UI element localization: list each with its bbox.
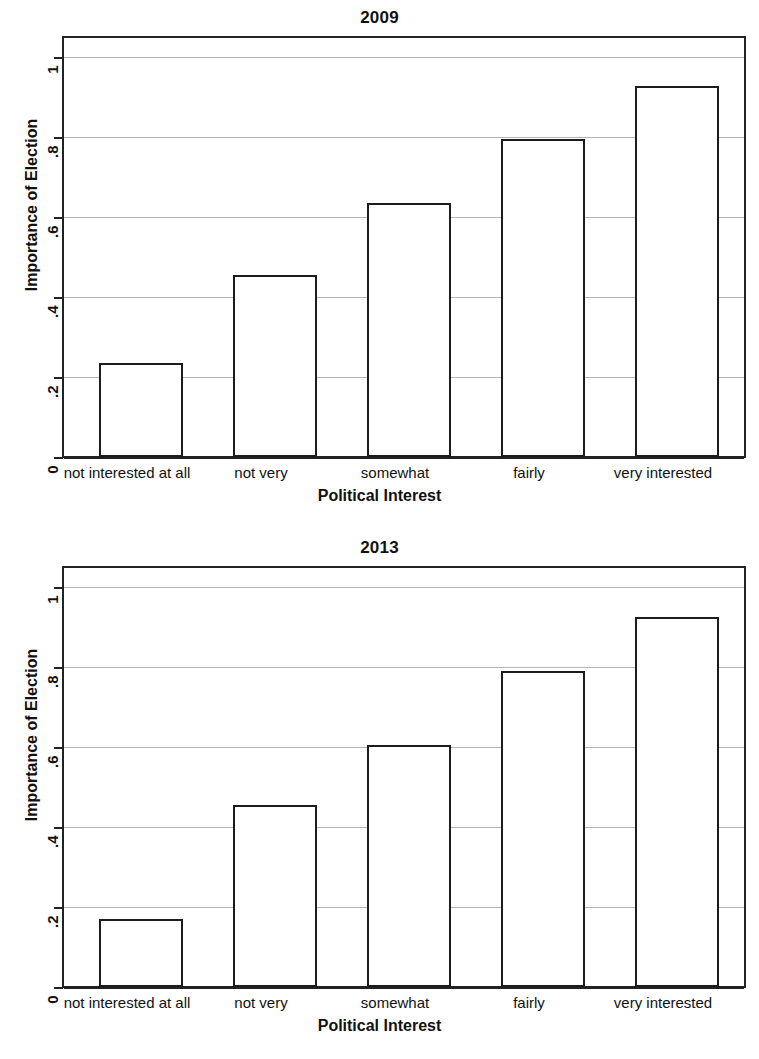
bar-not-very [233,275,317,457]
bar-very-interested [635,617,719,987]
chart-panel-2013: 2013 Importance of Election 1 .8 .6 .4 .… [0,530,759,1059]
plot-area-2009 [62,36,746,458]
y-tick-label-04: .4 [44,836,61,866]
x-axis-title-2013: Political Interest [0,1017,759,1035]
chart-panel-2009: 2009 Importance of Election 1 .8 .6 .4 .… [0,0,759,529]
x-tick-label-not-very: not very [183,464,339,481]
y-tick-label-06: .6 [44,756,61,786]
x-tick-label-somewhat: somewhat [317,464,473,481]
bar-fairly [501,671,585,987]
y-axis-title-2009: Importance of Election [23,85,41,325]
panel-title-2009: 2009 [0,8,759,28]
bar-somewhat [367,203,451,457]
bar-very-interested [635,86,719,457]
x-tick-label-not-very: not very [183,994,339,1011]
bar-not-interested-at-all [99,363,183,457]
x-axis-baseline [64,457,744,459]
y-tick-label-08: .8 [44,146,61,176]
x-tick-label-very-interested: very interested [578,994,748,1011]
chart-page: 2009 Importance of Election 1 .8 .6 .4 .… [0,0,759,1059]
gridline-1 [64,587,744,588]
y-tick-label-06: .6 [44,226,61,256]
bar-not-very [233,805,317,987]
gridline-1 [64,57,744,58]
y-tick-label-02: .2 [44,386,61,416]
bar-fairly [501,139,585,457]
bar-somewhat [367,745,451,987]
y-axis-title-2013: Importance of Election [23,615,41,855]
panel-title-2013: 2013 [0,538,759,558]
y-tick-label-1: 1 [44,66,61,96]
plot-area-2013 [62,566,746,988]
x-axis-title-2009: Political Interest [0,487,759,505]
y-tick-label-02: .2 [44,916,61,946]
y-tick-label-04: .4 [44,306,61,336]
bar-not-interested-at-all [99,919,183,987]
x-axis-baseline [64,987,744,989]
x-tick-label-somewhat: somewhat [317,994,473,1011]
y-tick-label-1: 1 [44,596,61,626]
y-tick-label-08: .8 [44,676,61,706]
x-tick-label-very-interested: very interested [578,464,748,481]
